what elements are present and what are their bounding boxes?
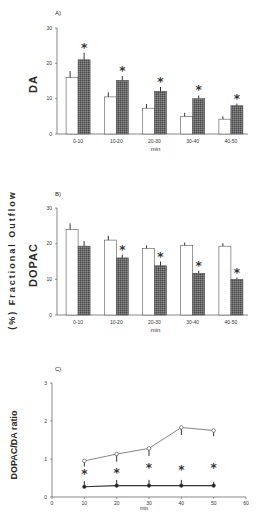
panel-label: A) bbox=[55, 10, 61, 16]
significance-star: * bbox=[119, 243, 126, 257]
y-tick-label: 0 bbox=[44, 494, 47, 500]
significance-star: * bbox=[157, 75, 164, 89]
hatched-bar bbox=[193, 273, 205, 315]
hatched-bar bbox=[116, 80, 128, 134]
filled-circle-marker bbox=[180, 484, 184, 488]
significance-star: * bbox=[119, 64, 126, 78]
panel-label: B) bbox=[55, 191, 61, 197]
open-circle-marker bbox=[212, 429, 216, 433]
y-tick-label: 0 bbox=[49, 131, 52, 137]
x-axis-label: min bbox=[151, 327, 161, 333]
significance-star: * bbox=[211, 461, 218, 475]
significance-star: * bbox=[196, 259, 203, 273]
filled-circle-marker bbox=[115, 484, 119, 488]
y-tick-label: 1 bbox=[44, 456, 47, 462]
panel-a-da-bar-chart: A)DA01020300-10*10-20*20-30*30-40*40-50*… bbox=[27, 10, 248, 152]
hatched-bar bbox=[155, 266, 167, 315]
y-tick-label: 20 bbox=[46, 240, 52, 246]
hatched-bar bbox=[231, 279, 243, 315]
significance-star: * bbox=[81, 467, 88, 481]
open-bar bbox=[104, 97, 116, 134]
x-tick-label: 50 bbox=[211, 500, 217, 506]
x-tick-label: 40 bbox=[179, 500, 185, 506]
open-bar bbox=[219, 246, 231, 315]
y-tick-label: 10 bbox=[46, 95, 52, 101]
significance-star: * bbox=[196, 83, 203, 97]
figure: (%) Fractional Outflow A)DA01020300-10*1… bbox=[0, 0, 256, 519]
open-bar bbox=[143, 108, 155, 134]
filled-circle-marker bbox=[147, 484, 151, 488]
x-tick-label: 20-30 bbox=[148, 319, 161, 325]
open-bar bbox=[181, 245, 193, 315]
x-tick-label: 0 bbox=[51, 500, 54, 506]
hatched-bar bbox=[116, 258, 128, 315]
open-bar bbox=[219, 119, 231, 134]
significance-star: * bbox=[234, 266, 241, 280]
y-tick-label: 3 bbox=[44, 380, 47, 386]
x-tick-label: 30-40 bbox=[186, 319, 199, 325]
significance-star: * bbox=[178, 463, 185, 477]
filled-circle-marker bbox=[212, 484, 216, 488]
y-tick-label: 30 bbox=[46, 205, 52, 211]
panel-b-dopac-bar-chart: B)DOPAC01020300-1010-20*20-30*30-40*40-5… bbox=[27, 191, 248, 333]
significance-star: * bbox=[157, 250, 164, 264]
open-bar bbox=[104, 240, 116, 315]
x-tick-label: 10 bbox=[82, 500, 88, 506]
x-tick-label: 10-20 bbox=[110, 138, 123, 144]
open-bar bbox=[66, 229, 78, 315]
x-tick-label: 0-10 bbox=[73, 138, 83, 144]
significance-star: * bbox=[114, 466, 121, 480]
open-circle-marker bbox=[180, 426, 184, 430]
significance-star: * bbox=[234, 92, 241, 106]
open-circle-marker bbox=[83, 459, 87, 463]
x-tick-label: 20 bbox=[114, 500, 120, 506]
x-axis-label: min bbox=[140, 505, 148, 511]
x-tick-label: 0-10 bbox=[73, 319, 83, 325]
open-bar bbox=[143, 248, 155, 315]
y-tick-label: 2 bbox=[44, 418, 47, 424]
y-tick-label: 30 bbox=[46, 25, 52, 31]
x-tick-label: 30-40 bbox=[186, 138, 199, 144]
hatched-bar bbox=[78, 60, 90, 134]
shared-y-axis-label: (%) Fractional Outflow bbox=[7, 190, 17, 330]
panel-label: C) bbox=[55, 366, 61, 372]
hatched-bar bbox=[78, 246, 90, 315]
open-circle-marker bbox=[115, 452, 119, 456]
y-axis-label: DOPAC/DA ratio bbox=[9, 410, 19, 480]
y-tick-label: 20 bbox=[46, 60, 52, 66]
x-tick-label: 40-50 bbox=[225, 319, 238, 325]
hatched-bar bbox=[193, 99, 205, 134]
x-tick-label: 60 bbox=[243, 500, 249, 506]
open-bar bbox=[181, 116, 193, 134]
open-circle-marker bbox=[147, 447, 151, 451]
y-axis-label: DOPAC bbox=[27, 243, 39, 287]
y-axis-label: DA bbox=[27, 75, 39, 93]
y-tick-label: 10 bbox=[46, 276, 52, 282]
x-tick-label: 10-20 bbox=[110, 319, 123, 325]
significance-star: * bbox=[146, 461, 153, 475]
x-tick-label: 20-30 bbox=[148, 138, 161, 144]
y-tick-label: 0 bbox=[49, 312, 52, 318]
hatched-bar bbox=[155, 91, 167, 134]
filled-circle-marker bbox=[83, 485, 87, 489]
x-axis-label: min bbox=[151, 146, 161, 152]
panel-c-ratio-line-chart: C)DOPAC/DA ratio01230102030405060min****… bbox=[9, 366, 249, 511]
open-bar bbox=[66, 77, 78, 134]
significance-star: * bbox=[81, 41, 88, 55]
x-tick-label: 40-50 bbox=[225, 138, 238, 144]
hatched-bar bbox=[231, 106, 243, 134]
